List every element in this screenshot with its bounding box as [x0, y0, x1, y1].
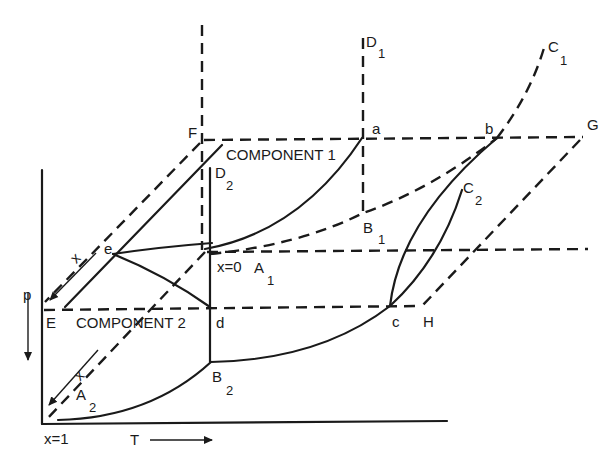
label-C1: C 1 — [548, 38, 567, 68]
phase-diagram: F COMPONENT 1 a b G D 1 C 1 D 2 C 2 B 1 … — [0, 0, 611, 462]
svg-text:C: C — [548, 38, 559, 55]
label-D1: D 1 — [366, 33, 385, 61]
label-d: d — [216, 314, 224, 331]
label-x-equals-0: x=0 — [217, 258, 242, 275]
label-component1: COMPONENT 1 — [226, 146, 336, 163]
svg-text:B: B — [212, 368, 222, 385]
svg-text:B: B — [363, 219, 373, 236]
label-A1: A 1 — [254, 259, 274, 288]
svg-text:D: D — [366, 33, 377, 50]
label-G: G — [587, 116, 599, 133]
component1-inner-diagonal — [65, 145, 222, 307]
svg-text:2: 2 — [226, 383, 233, 398]
label-c: c — [392, 313, 400, 330]
curve-c-to-b — [390, 138, 497, 306]
temperature-axis-line — [42, 421, 447, 424]
svg-text:1: 1 — [378, 232, 385, 247]
component2-plane-edge — [44, 306, 422, 310]
label-x-equals-1: x=1 — [44, 430, 69, 447]
svg-text:2: 2 — [89, 400, 96, 415]
label-a: a — [372, 120, 381, 137]
label-component2: COMPONENT 2 — [76, 314, 186, 331]
svg-text:A: A — [76, 386, 86, 403]
component-right-edge-dashed — [422, 140, 580, 306]
composition-arrow-lower — [49, 350, 98, 405]
svg-text:1: 1 — [560, 53, 567, 68]
label-b: b — [485, 120, 493, 137]
curve-c-to-c2 — [390, 190, 462, 306]
label-E: E — [46, 314, 56, 331]
diagram-canvas: F COMPONENT 1 a b G D 1 C 1 D 2 C 2 B 1 … — [0, 0, 611, 462]
label-x-lower: x — [70, 366, 88, 384]
label-H: H — [423, 313, 434, 330]
svg-text:2: 2 — [475, 193, 482, 208]
x0-horizontal-dashed — [207, 249, 588, 252]
component1-left-edge-dashed — [45, 143, 200, 302]
component1-plane-top-edge — [204, 137, 583, 140]
curve-e-to-d2 — [113, 243, 212, 254]
curve-b-to-c1-dashed — [497, 48, 544, 138]
label-e: e — [104, 240, 112, 257]
svg-text:A: A — [254, 259, 264, 276]
svg-text:1: 1 — [378, 46, 385, 61]
label-D2: D 2 — [215, 164, 233, 193]
label-p: p — [23, 286, 31, 303]
label-C2: C 2 — [463, 179, 482, 208]
label-F: F — [188, 124, 197, 141]
svg-text:1: 1 — [267, 273, 274, 288]
svg-text:2: 2 — [226, 178, 233, 193]
label-B1: B 1 — [363, 219, 385, 247]
svg-text:D: D — [215, 164, 226, 181]
svg-text:C: C — [463, 179, 474, 196]
label-T: T — [130, 431, 139, 448]
label-A2: A 2 — [76, 386, 96, 415]
curve-b2-to-c — [211, 306, 390, 362]
label-B2: B 2 — [212, 368, 233, 398]
